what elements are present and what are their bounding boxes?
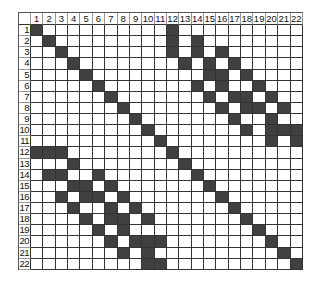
column-header: 8 bbox=[118, 13, 130, 25]
empty-cell bbox=[105, 25, 117, 36]
empty-cell bbox=[93, 36, 105, 47]
empty-cell bbox=[192, 225, 204, 236]
filled-cell bbox=[179, 58, 191, 69]
empty-cell bbox=[130, 36, 142, 47]
filled-cell bbox=[142, 259, 154, 270]
empty-cell bbox=[291, 181, 303, 192]
empty-cell bbox=[68, 36, 80, 47]
empty-cell bbox=[229, 136, 241, 147]
empty-cell bbox=[31, 47, 43, 58]
empty-cell bbox=[179, 259, 191, 270]
empty-cell bbox=[142, 225, 154, 236]
empty-cell bbox=[204, 25, 216, 36]
filled-cell bbox=[266, 136, 278, 147]
empty-cell bbox=[118, 203, 130, 214]
empty-cell bbox=[179, 225, 191, 236]
empty-cell bbox=[80, 170, 92, 181]
empty-cell bbox=[31, 236, 43, 247]
empty-cell bbox=[253, 248, 265, 259]
empty-cell bbox=[105, 248, 117, 259]
filled-cell bbox=[43, 170, 55, 181]
filled-cell bbox=[278, 103, 290, 114]
empty-cell bbox=[43, 81, 55, 92]
filled-cell bbox=[105, 203, 117, 214]
empty-cell bbox=[105, 58, 117, 69]
empty-cell bbox=[68, 92, 80, 103]
filled-cell bbox=[155, 259, 167, 270]
column-header: 10 bbox=[142, 13, 154, 25]
empty-cell bbox=[68, 47, 80, 58]
empty-cell bbox=[253, 125, 265, 136]
empty-cell bbox=[192, 214, 204, 225]
empty-cell bbox=[216, 114, 228, 125]
empty-cell bbox=[241, 259, 253, 270]
empty-cell bbox=[216, 147, 228, 158]
empty-cell bbox=[56, 225, 68, 236]
empty-cell bbox=[204, 259, 216, 270]
empty-cell bbox=[68, 103, 80, 114]
empty-cell bbox=[68, 114, 80, 125]
empty-cell bbox=[155, 81, 167, 92]
empty-cell bbox=[56, 125, 68, 136]
empty-cell bbox=[241, 114, 253, 125]
empty-cell bbox=[278, 25, 290, 36]
empty-cell bbox=[253, 147, 265, 158]
empty-cell bbox=[241, 58, 253, 69]
empty-cell bbox=[291, 170, 303, 181]
empty-cell bbox=[192, 92, 204, 103]
empty-cell bbox=[291, 36, 303, 47]
empty-cell bbox=[167, 159, 179, 170]
empty-cell bbox=[204, 214, 216, 225]
empty-cell bbox=[204, 236, 216, 247]
empty-cell bbox=[179, 236, 191, 247]
filled-cell bbox=[266, 92, 278, 103]
filled-cell bbox=[253, 103, 265, 114]
empty-cell bbox=[167, 192, 179, 203]
empty-cell bbox=[241, 181, 253, 192]
filled-cell bbox=[155, 136, 167, 147]
empty-cell bbox=[266, 192, 278, 203]
empty-cell bbox=[253, 259, 265, 270]
empty-cell bbox=[31, 70, 43, 81]
empty-cell bbox=[68, 147, 80, 158]
empty-cell bbox=[204, 147, 216, 158]
empty-cell bbox=[80, 47, 92, 58]
empty-cell bbox=[266, 103, 278, 114]
empty-cell bbox=[93, 159, 105, 170]
empty-cell bbox=[31, 181, 43, 192]
empty-cell bbox=[155, 36, 167, 47]
empty-cell bbox=[241, 225, 253, 236]
empty-cell bbox=[192, 70, 204, 81]
empty-cell bbox=[253, 36, 265, 47]
empty-cell bbox=[56, 25, 68, 36]
empty-cell bbox=[266, 70, 278, 81]
empty-cell bbox=[229, 81, 241, 92]
empty-cell bbox=[291, 147, 303, 158]
filled-cell bbox=[56, 192, 68, 203]
empty-cell bbox=[241, 236, 253, 247]
filled-cell bbox=[167, 47, 179, 58]
empty-cell bbox=[216, 58, 228, 69]
empty-cell bbox=[80, 203, 92, 214]
filled-cell bbox=[241, 214, 253, 225]
filled-cell bbox=[118, 192, 130, 203]
filled-cell bbox=[204, 58, 216, 69]
filled-cell bbox=[241, 103, 253, 114]
empty-cell bbox=[56, 181, 68, 192]
empty-cell bbox=[56, 58, 68, 69]
empty-cell bbox=[179, 136, 191, 147]
filled-cell bbox=[204, 70, 216, 81]
row-header: 21 bbox=[19, 248, 31, 259]
empty-cell bbox=[118, 92, 130, 103]
empty-cell bbox=[204, 36, 216, 47]
empty-cell bbox=[229, 214, 241, 225]
empty-cell bbox=[142, 192, 154, 203]
empty-cell bbox=[216, 214, 228, 225]
empty-cell bbox=[278, 214, 290, 225]
empty-cell bbox=[105, 114, 117, 125]
filled-cell bbox=[93, 192, 105, 203]
empty-cell bbox=[31, 214, 43, 225]
empty-cell bbox=[278, 225, 290, 236]
empty-cell bbox=[80, 225, 92, 236]
empty-cell bbox=[31, 248, 43, 259]
